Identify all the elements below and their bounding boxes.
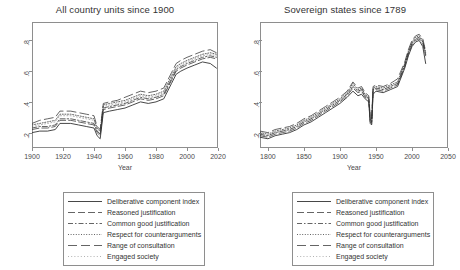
y-tick-label: .6 <box>24 71 31 77</box>
legend-label: Reasoned justification <box>336 209 405 216</box>
legend-item[interactable]: Deliberative component index <box>297 196 427 207</box>
legend-line-swatch <box>68 252 102 261</box>
x-axis-left: Year 1900192019401960198020002020 <box>32 148 218 174</box>
legend-label: Range of consultation <box>336 242 404 249</box>
legend-line-swatch <box>68 208 102 217</box>
legend-item[interactable]: Common good justification <box>297 218 427 229</box>
legend-label: Reasoned justification <box>107 209 176 216</box>
x-tick-label: 2020 <box>210 153 226 160</box>
legend-item[interactable]: Engaged society <box>68 251 198 262</box>
x-tick-mark <box>340 148 341 151</box>
legend-item[interactable]: Common good justification <box>68 218 198 229</box>
legend-item[interactable]: Range of consultation <box>297 240 427 251</box>
series-line <box>260 37 426 135</box>
y-tick-label: .4 <box>24 102 31 108</box>
x-tick-label: 1900 <box>332 153 348 160</box>
x-tick-label: 1960 <box>117 153 133 160</box>
legend-item[interactable]: Respect for counterarguments <box>297 229 427 240</box>
x-tick-mark <box>412 148 413 151</box>
legend-line-swatch <box>68 219 102 228</box>
panel-all-country-units: All country units since 1900 .2.4.6.8 Ye… <box>0 0 230 188</box>
series-line <box>260 39 426 137</box>
legend-label: Respect for counterarguments <box>107 231 201 238</box>
x-tick-label: 1920 <box>55 153 71 160</box>
x-tick-label: 1950 <box>368 153 384 160</box>
legend-item[interactable]: Reasoned justification <box>297 207 427 218</box>
legend-line-swatch <box>297 252 331 261</box>
legend-item[interactable]: Engaged society <box>297 251 427 262</box>
series-lines-right <box>260 22 448 148</box>
x-tick-mark <box>94 148 95 151</box>
series-line <box>32 50 216 130</box>
series-lines-left <box>32 22 218 148</box>
x-tick-mark <box>376 148 377 151</box>
x-tick-label: 2000 <box>404 153 420 160</box>
legend-item[interactable]: Respect for counterarguments <box>68 229 198 240</box>
x-tick-mark <box>448 148 449 151</box>
legend-label: Engaged society <box>336 253 388 260</box>
legend-line-swatch <box>297 241 331 250</box>
x-tick-mark <box>32 148 33 151</box>
x-tick-label: 2050 <box>440 153 456 160</box>
legend-line-swatch <box>68 197 102 206</box>
y-axis-right: .2.4.6.8 <box>230 22 262 148</box>
x-tick-label: 1940 <box>86 153 102 160</box>
x-tick-mark <box>218 148 219 151</box>
x-tick-mark <box>187 148 188 151</box>
x-tick-mark <box>268 148 269 151</box>
legend-left: Deliberative component indexReasoned jus… <box>63 192 205 266</box>
x-axis-title-right: Year <box>260 164 448 171</box>
panel-sovereign-states: Sovereign states since 1789 .2.4.6.8 Yea… <box>230 0 460 188</box>
legend-line-swatch <box>68 241 102 250</box>
legend-item[interactable]: Reasoned justification <box>68 207 198 218</box>
x-tick-label: 1850 <box>296 153 312 160</box>
x-tick-label: 1980 <box>148 153 164 160</box>
x-tick-mark <box>304 148 305 151</box>
x-tick-label: 1800 <box>260 153 276 160</box>
panel-container: All country units since 1900 .2.4.6.8 Ye… <box>0 0 460 188</box>
figure-root: All country units since 1900 .2.4.6.8 Ye… <box>0 0 460 270</box>
series-line <box>260 37 426 135</box>
x-tick-mark <box>125 148 126 151</box>
x-tick-mark <box>63 148 64 151</box>
y-axis-left: .2.4.6.8 <box>0 22 32 148</box>
legend-label: Common good justification <box>336 220 419 227</box>
x-tick-label: 2000 <box>179 153 195 160</box>
legend-label: Common good justification <box>107 220 190 227</box>
series-line <box>260 36 426 134</box>
plot-area-left <box>32 22 218 148</box>
legend-label: Deliberative component index <box>336 198 428 205</box>
y-tick-label: .2 <box>24 133 31 139</box>
x-tick-label: 1900 <box>24 153 40 160</box>
legend-label: Range of consultation <box>107 242 175 249</box>
series-line <box>260 40 426 138</box>
x-axis-right: Year 180018501900195020002050 <box>260 148 448 174</box>
panel-title-right: Sovereign states since 1789 <box>230 4 460 15</box>
y-tick-label: .8 <box>24 40 31 46</box>
legend-item[interactable]: Range of consultation <box>68 240 198 251</box>
legend-item[interactable]: Deliberative component index <box>68 196 198 207</box>
legend-line-swatch <box>297 219 331 228</box>
panel-title-left: All country units since 1900 <box>0 4 230 15</box>
legend-line-swatch <box>297 208 331 217</box>
x-tick-mark <box>156 148 157 151</box>
legend-label: Respect for counterarguments <box>336 231 430 238</box>
legend-line-swatch <box>297 197 331 206</box>
legend-right: Deliberative component indexReasoned jus… <box>292 192 434 266</box>
plot-area-right <box>260 22 448 148</box>
legend-label: Engaged society <box>107 253 159 260</box>
legend-line-swatch <box>68 230 102 239</box>
legend-label: Deliberative component index <box>107 198 199 205</box>
legend-line-swatch <box>297 230 331 239</box>
x-axis-title-left: Year <box>32 164 218 171</box>
series-line <box>260 34 426 132</box>
